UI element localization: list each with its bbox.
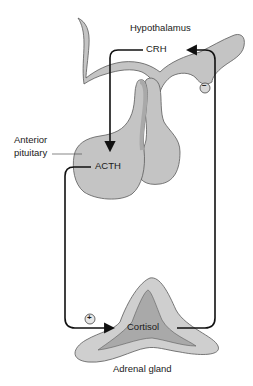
adrenal-gland-shape — [75, 278, 218, 362]
anterior-pituitary-label-line2: pituitary — [14, 148, 47, 159]
acth-label: ACTH — [95, 161, 121, 172]
adrenal-gland-label: Adrenal gland — [113, 364, 172, 375]
crh-label: CRH — [146, 44, 167, 55]
anterior-pituitary-label-line1: Anterior — [14, 135, 47, 146]
negative-feedback-sign: − — [202, 81, 207, 90]
cortisol-label: Cortisol — [127, 322, 159, 333]
positive-sign: + — [87, 313, 92, 322]
cortisol-feedback-line — [177, 50, 215, 328]
hypothalamus-label: Hypothalamus — [130, 23, 191, 34]
